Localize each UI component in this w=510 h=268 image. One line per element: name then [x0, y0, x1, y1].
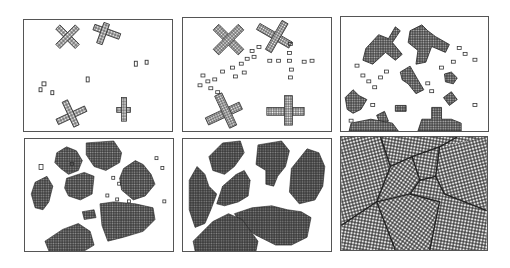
stage-4-drawing [25, 139, 173, 251]
panel-stage-2 [182, 17, 332, 132]
panel-stage-4 [24, 138, 174, 252]
stage-2-drawing [183, 18, 331, 131]
panel-stage-6 [340, 136, 488, 251]
stage-5-drawing [183, 139, 331, 251]
stage-6-drawing [341, 137, 487, 250]
panel-stage-3 [340, 16, 489, 132]
stage-3-drawing [341, 17, 488, 131]
panel-stage-5 [182, 138, 332, 252]
panel-stage-1 [23, 19, 173, 132]
stage-1-drawing [24, 20, 172, 131]
